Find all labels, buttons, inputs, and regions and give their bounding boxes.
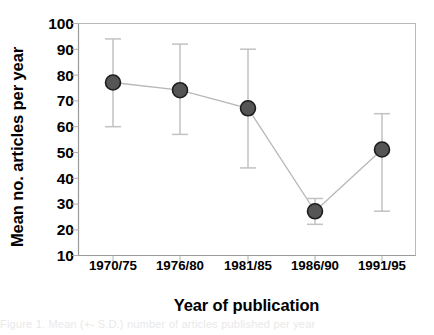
y-tick-marks <box>72 24 79 256</box>
chart-figure: Mean no. articles per year 100 90 80 70 … <box>0 0 434 335</box>
x-axis-title: Year of publication <box>78 296 415 315</box>
data-point-marker[interactable] <box>106 75 121 90</box>
data-point-marker[interactable] <box>173 83 188 98</box>
x-tick-label: 1991/95 <box>339 259 425 272</box>
x-axis-tick-labels: 1970/75 1976/80 1981/85 1986/90 1991/95 <box>0 259 434 281</box>
plot-frame <box>79 24 416 256</box>
data-point-marker[interactable] <box>375 142 390 157</box>
data-point-marker[interactable] <box>308 204 323 219</box>
error-bars <box>105 39 390 224</box>
data-point-marker[interactable] <box>241 101 256 116</box>
plot-area <box>0 0 434 335</box>
cut-off-caption: Figure 1. Mean (+- S.D.) number of artic… <box>0 318 434 335</box>
